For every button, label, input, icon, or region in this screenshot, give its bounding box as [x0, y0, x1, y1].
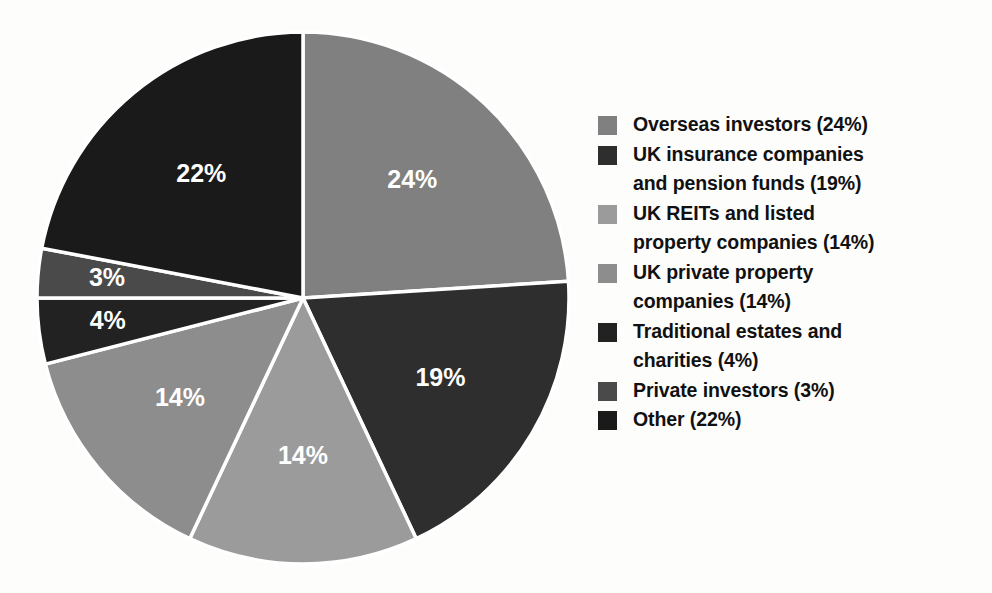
legend-item[interactable]: UK private property companies (14%): [598, 258, 992, 317]
legend-item[interactable]: Other (22%): [598, 405, 992, 435]
legend-swatch-icon: [598, 205, 617, 224]
legend-item-label: Private investors (3%): [633, 376, 992, 406]
legend-swatch-icon: [598, 382, 617, 401]
pie-slice-data-label: 22%: [176, 159, 226, 187]
pie-slice-data-label: 14%: [278, 441, 328, 469]
legend-item[interactable]: Overseas investors (24%): [598, 110, 992, 140]
pie-slice-data-label: 14%: [155, 383, 205, 411]
pie-slice-data-label: 3%: [89, 263, 125, 291]
pie-slice-data-label: 19%: [415, 363, 465, 391]
legend-item-label: Overseas investors (24%): [633, 110, 992, 140]
legend-item[interactable]: Private investors (3%): [598, 376, 992, 406]
legend-item[interactable]: Traditional estates and charities (4%): [598, 317, 992, 376]
pie-svg: 24%19%14%14%4%3%22%: [0, 0, 600, 593]
legend-item-label: Other (22%): [633, 405, 992, 435]
legend-item-label: UK private property companies (14%): [633, 258, 992, 317]
legend-item-label: Traditional estates and charities (4%): [633, 317, 992, 376]
legend-item-label: UK REITs and listed property companies (…: [633, 199, 992, 258]
pie-slice-data-label: 4%: [90, 306, 126, 334]
chart-legend: Overseas investors (24%)UK insurance com…: [598, 110, 992, 435]
legend-swatch-icon: [598, 116, 617, 135]
pie-chart-plot-area: 24%19%14%14%4%3%22%: [0, 0, 600, 593]
pie-chart-figure: 24%19%14%14%4%3%22% Overseas investors (…: [0, 0, 992, 593]
pie-slices-group: [37, 32, 569, 564]
legend-item[interactable]: UK REITs and listed property companies (…: [598, 199, 992, 258]
legend-swatch-icon: [598, 411, 617, 430]
legend-swatch-icon: [598, 146, 617, 165]
pie-slice-data-label: 24%: [387, 165, 437, 193]
legend-swatch-icon: [598, 264, 617, 283]
legend-item[interactable]: UK insurance companies and pension funds…: [598, 140, 992, 199]
legend-swatch-icon: [598, 323, 617, 342]
legend-item-label: UK insurance companies and pension funds…: [633, 140, 992, 199]
